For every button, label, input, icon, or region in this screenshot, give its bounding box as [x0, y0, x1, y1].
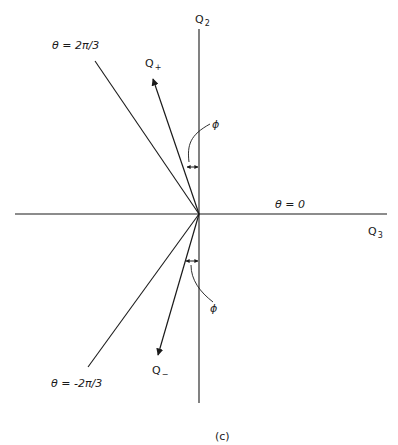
q-plus-label: Q+: [145, 57, 161, 72]
theta-neg-2pi3-line: [88, 214, 199, 367]
theta-2pi3-label: θ = 2π/3: [52, 39, 99, 52]
lower-phi-label: ϕ: [210, 302, 217, 315]
theta-2pi3-line: [95, 61, 199, 214]
upper-phi-label: ϕ: [212, 118, 219, 131]
q-minus-vector: [158, 214, 199, 355]
q-plane-diagram: Q2 Q3 θ = 2π/3 θ = 0 θ = -2π/3 Q+ Q− ϕ ϕ…: [0, 0, 398, 445]
theta-neg-2pi3-label: θ = -2π/3: [51, 377, 102, 390]
theta-zero-label: θ = 0: [275, 198, 305, 211]
q2-axis-label: Q2: [195, 13, 210, 28]
q3-axis-label: Q3: [368, 225, 383, 240]
q-plus-vector: [153, 79, 199, 214]
q-minus-label: Q−: [152, 364, 168, 379]
figure-caption: (c): [215, 430, 230, 443]
lower-phi-leader: [191, 265, 213, 302]
